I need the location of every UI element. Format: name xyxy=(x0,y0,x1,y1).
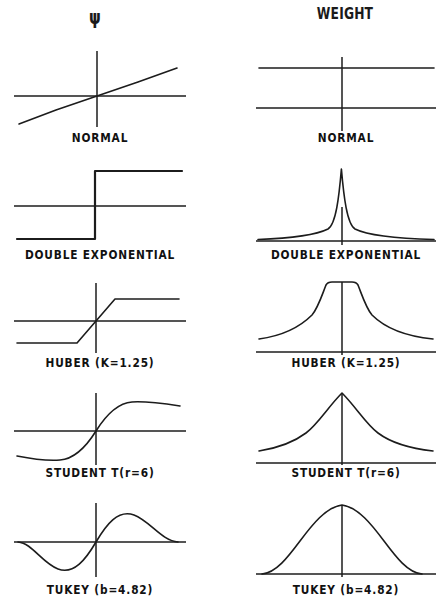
panel-weight-huber xyxy=(256,279,436,355)
chart-weight-huber xyxy=(256,279,436,355)
chart-weight-double-exponential xyxy=(256,167,436,245)
chart-psi-tukey xyxy=(14,501,186,577)
chart-psi-normal xyxy=(14,45,186,127)
chart-weight-student-t xyxy=(256,389,436,465)
panel-weight-double-exponential xyxy=(256,167,436,245)
psi-column-header: ψ xyxy=(68,6,123,28)
panel-label-psi-double-exponential: DOUBLE EXPONENTIAL xyxy=(21,248,179,262)
panel-label-weight-double-exponential: DOUBLE EXPONENTIAL xyxy=(263,248,429,262)
panel-label-weight-student-t: STUDENT T(r=6) xyxy=(263,466,429,480)
chart-psi-huber xyxy=(14,281,186,353)
panel-label-weight-normal: NORMAL xyxy=(263,131,429,145)
chart-psi-double-exponential xyxy=(14,167,186,245)
panel-psi-normal xyxy=(14,45,186,127)
weight-column-header: WEIGHT xyxy=(308,5,382,23)
panel-label-weight-huber: HUBER (K=1.25) xyxy=(263,356,429,370)
panel-psi-double-exponential xyxy=(14,167,186,245)
panel-psi-tukey xyxy=(14,501,186,577)
panel-weight-student-t xyxy=(256,389,436,465)
panel-label-psi-tukey: TUKEY (b=4.82) xyxy=(21,583,179,597)
panel-weight-normal xyxy=(256,45,436,127)
panel-label-psi-huber: HUBER (K=1.25) xyxy=(21,356,179,370)
panel-psi-huber xyxy=(14,281,186,353)
chart-weight-normal xyxy=(256,45,436,127)
curve-psi-double-exponential xyxy=(17,171,182,239)
panel-weight-tukey xyxy=(256,499,436,577)
chart-weight-tukey xyxy=(256,499,436,577)
chart-psi-student-t xyxy=(14,391,186,465)
panel-label-psi-normal: NORMAL xyxy=(21,131,179,145)
panel-psi-student-t xyxy=(14,391,186,465)
curve-weight-double-exponential xyxy=(258,169,434,240)
curve-weight-student-t xyxy=(259,393,433,451)
figure-root: ψ WEIGHT NORMAL NORMAL DOUBLE EXPONENTIA… xyxy=(0,0,445,613)
curve-weight-huber xyxy=(259,282,433,339)
panel-label-psi-student-t: STUDENT T(r=6) xyxy=(21,466,179,480)
panel-label-weight-tukey: TUKEY (b=4.82) xyxy=(263,583,429,597)
